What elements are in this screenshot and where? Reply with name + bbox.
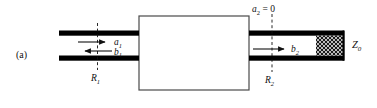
port2-reference-plane-label: R2 xyxy=(264,75,275,87)
port2-line-end-cap xyxy=(343,31,345,61)
panel-label: (a) xyxy=(16,49,27,61)
port2-lower-conductor xyxy=(249,56,344,61)
port2-matched-load-hatch xyxy=(316,36,344,56)
port2-termination-label: Z0 xyxy=(352,39,362,53)
figure-canvas: (a) a1 b1 R1 a2= 0 xyxy=(0,0,377,108)
port2-incident-label: a2= 0 xyxy=(252,4,275,16)
figure-two-port-network: (a) a1 b1 R1 a2= 0 xyxy=(0,0,377,108)
port1-lower-conductor xyxy=(59,56,139,61)
port1-reference-plane-label: R1 xyxy=(90,73,100,85)
port2-upper-conductor xyxy=(249,31,344,36)
port1-upper-conductor xyxy=(59,31,139,36)
network-box xyxy=(139,16,249,90)
port2-emergent-label: b2 xyxy=(291,44,300,56)
